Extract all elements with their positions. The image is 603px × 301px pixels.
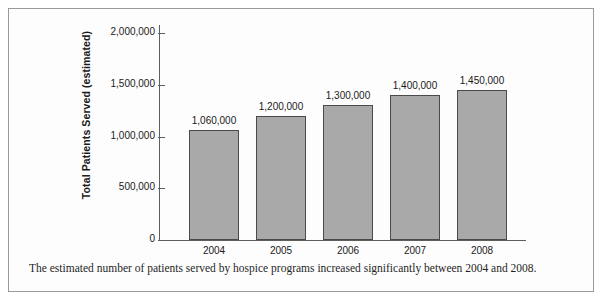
- bar: [390, 95, 440, 240]
- y-axis-tick-mark: [158, 85, 165, 86]
- y-axis-tick-label: 0: [149, 233, 155, 244]
- y-axis-tick: 500,000: [9, 188, 169, 189]
- y-axis-tick-mark: [158, 137, 165, 138]
- bar-chart: Total Patients Served (estimated) 0500,0…: [9, 9, 595, 249]
- y-axis-tick: 1,000,000: [9, 137, 169, 138]
- y-axis-tick-label: 500,000: [119, 181, 155, 192]
- x-axis-tick-label: 2007: [380, 245, 450, 256]
- y-axis-tick: 2,000,000: [9, 33, 169, 34]
- y-axis-tick: 1,500,000: [9, 85, 169, 86]
- bar-value-label: 1,400,000: [377, 80, 453, 91]
- x-axis-tick-label: 2006: [313, 245, 383, 256]
- y-axis-tick-label: 1,000,000: [111, 130, 156, 141]
- y-axis-line: [159, 25, 160, 241]
- y-axis-tick-label: 1,500,000: [111, 78, 156, 89]
- y-axis-tick: 0: [9, 240, 169, 241]
- x-axis-tick-label: 2005: [246, 245, 316, 256]
- bar-value-label: 1,300,000: [310, 90, 386, 101]
- y-axis-title: Total Patients Served (estimated): [80, 5, 92, 225]
- bar-value-label: 1,060,000: [176, 115, 252, 126]
- x-axis-tick-label: 2008: [447, 245, 517, 256]
- x-axis-tick-label: 2004: [179, 245, 249, 256]
- bar: [189, 130, 239, 240]
- y-axis-tick-mark: [158, 240, 165, 241]
- bar-value-label: 1,200,000: [243, 101, 319, 112]
- figure-caption: The estimated number of patients served …: [29, 261, 579, 275]
- bar: [323, 105, 373, 240]
- y-axis-tick-mark: [158, 188, 165, 189]
- y-axis-tick-label: 2,000,000: [111, 26, 156, 37]
- y-axis-tick-mark: [158, 33, 165, 34]
- bar: [256, 116, 306, 240]
- bar: [457, 90, 507, 240]
- figure-frame: Total Patients Served (estimated) 0500,0…: [8, 8, 594, 292]
- x-axis-line: [159, 240, 526, 241]
- bar-value-label: 1,450,000: [444, 75, 520, 86]
